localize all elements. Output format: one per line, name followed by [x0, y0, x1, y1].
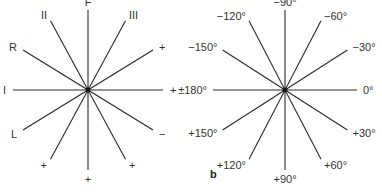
ray-label: −60° — [324, 10, 347, 22]
ray-label: +60° — [324, 159, 347, 171]
left-rosette: FIII++−+++LIRII — [3, 0, 177, 185]
ray-label: + — [41, 159, 47, 171]
right-rosette: −90°−60°−30°0°+30°+60°+90°+120°+150°±180… — [178, 0, 375, 185]
ray-line — [285, 90, 321, 159]
ray-line — [223, 50, 285, 90]
ray-line — [23, 50, 88, 90]
ray-line — [249, 21, 285, 90]
ray-label: − — [159, 128, 165, 140]
ray-line — [88, 90, 126, 159]
ray-label: R — [9, 41, 17, 53]
ray-label: I — [3, 84, 6, 96]
ray-label: III — [129, 9, 138, 21]
ray-line — [51, 21, 89, 90]
ray-line — [88, 21, 126, 90]
ray-label: + — [170, 84, 176, 96]
ray-label: 0° — [363, 84, 374, 96]
ray-label: −30° — [353, 41, 376, 53]
ray-line — [249, 90, 285, 159]
ray-line — [88, 50, 153, 90]
ray-label: −120° — [217, 10, 246, 22]
ray-label: L — [11, 128, 17, 140]
ray-line — [23, 90, 88, 130]
rosette-figure: FIII++−+++LIRII −90°−60°−30°0°+30°+60°+9… — [0, 0, 382, 192]
ray-line — [51, 90, 89, 159]
panel-label-b: b — [210, 168, 217, 180]
ray-line — [285, 90, 347, 130]
ray-label: + — [129, 159, 135, 171]
ray-label: −90° — [273, 0, 296, 8]
ray-label: +90° — [273, 173, 296, 185]
ray-label: −150° — [188, 41, 217, 53]
ray-line — [223, 90, 285, 130]
ray-line — [285, 50, 347, 90]
ray-label: II — [41, 9, 47, 21]
ray-label: +120° — [217, 159, 246, 171]
center-point — [283, 88, 288, 93]
ray-label: +30° — [353, 127, 376, 139]
center-point — [86, 88, 91, 93]
ray-label: + — [85, 173, 91, 185]
ray-label: +150° — [188, 127, 217, 139]
ray-label: ±180° — [178, 84, 207, 96]
ray-line — [285, 21, 321, 90]
ray-line — [88, 90, 153, 130]
ray-label: + — [159, 41, 165, 53]
ray-label: F — [85, 0, 92, 8]
